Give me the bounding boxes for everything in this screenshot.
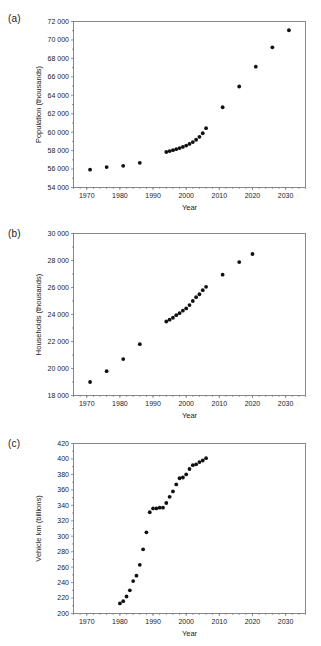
y-tick-label: 340 <box>57 502 69 509</box>
data-point <box>221 105 225 109</box>
x-tick-label: 2000 <box>178 618 194 625</box>
y-tick-label: 68 000 <box>48 55 70 62</box>
data-point <box>201 288 205 292</box>
y-tick-label: 60 000 <box>48 129 70 136</box>
data-point <box>194 462 198 466</box>
data-point <box>178 146 182 150</box>
x-tick-label: 2020 <box>245 400 261 407</box>
data-point <box>188 467 192 471</box>
x-tick-label: 1980 <box>112 618 128 625</box>
x-axis-title: Year <box>182 411 198 420</box>
data-point <box>145 530 149 534</box>
figure-three-scatter-panels: (a) 54 00056 00058 00060 00062 00064 000… <box>0 0 321 646</box>
data-point <box>178 311 182 315</box>
data-point <box>194 295 198 299</box>
data-point <box>184 473 188 477</box>
x-axis-title: Year <box>182 629 198 638</box>
x-tick-label: 1970 <box>79 400 95 407</box>
data-point <box>138 342 142 346</box>
panel-a-plot: 54 00056 00058 00060 00062 00064 00066 0… <box>0 0 321 215</box>
panel-a: (a) 54 00056 00058 00060 00062 00064 000… <box>0 0 321 215</box>
data-point <box>118 602 122 606</box>
y-tick-label: 360 <box>57 486 69 493</box>
data-point <box>154 507 158 511</box>
y-tick-label: 300 <box>57 533 69 540</box>
y-tick-label: 26 000 <box>48 284 70 291</box>
data-point <box>88 168 92 172</box>
data-point <box>105 369 109 373</box>
y-tick-label: 62 000 <box>48 110 70 117</box>
y-tick-label: 56 000 <box>48 165 70 172</box>
data-point <box>171 148 175 152</box>
data-point <box>88 380 92 384</box>
data-point <box>184 144 188 148</box>
y-tick-label: 420 <box>57 440 69 447</box>
data-point <box>125 595 129 599</box>
x-tick-label: 1980 <box>112 192 128 199</box>
data-point <box>254 65 258 69</box>
y-tick-label: 72 000 <box>48 18 70 25</box>
panel-b: (b) 18 00020 00022 00024 00026 00028 000… <box>0 215 321 425</box>
y-tick-label: 320 <box>57 517 69 524</box>
data-point <box>151 507 155 511</box>
data-point <box>121 164 125 168</box>
data-point <box>178 476 182 480</box>
data-point <box>287 28 291 32</box>
x-axis-title: Year <box>182 203 198 212</box>
data-point <box>188 142 192 146</box>
data-point <box>201 459 205 463</box>
y-tick-label: 54 000 <box>48 184 70 191</box>
data-point <box>181 145 185 149</box>
y-tick-label: 240 <box>57 579 69 586</box>
data-point <box>174 147 178 151</box>
data-point <box>204 456 208 460</box>
y-tick-label: 220 <box>57 594 69 601</box>
panel-b-plot: 18 00020 00022 00024 00026 00028 00030 0… <box>0 215 321 425</box>
data-point <box>191 140 195 144</box>
data-point <box>191 299 195 303</box>
data-point <box>121 357 125 361</box>
y-tick-label: 260 <box>57 564 69 571</box>
x-tick-label: 1970 <box>79 618 95 625</box>
data-point <box>168 318 172 322</box>
data-point <box>174 483 178 487</box>
data-point <box>168 495 172 499</box>
y-tick-label: 380 <box>57 471 69 478</box>
data-series <box>88 28 291 171</box>
y-tick-label: 200 <box>57 610 69 617</box>
data-point <box>198 135 202 139</box>
y-tick-label: 400 <box>57 455 69 462</box>
y-tick-label: 18 000 <box>48 392 70 399</box>
x-tick-label: 2000 <box>178 400 194 407</box>
data-series <box>118 456 208 605</box>
data-point <box>191 463 195 467</box>
data-point <box>164 501 168 505</box>
data-point <box>237 85 241 89</box>
x-tick-label: 2030 <box>278 400 294 407</box>
data-point <box>221 273 225 277</box>
data-point <box>168 149 172 153</box>
x-tick-label: 2000 <box>178 192 194 199</box>
data-point <box>148 510 152 514</box>
data-point <box>194 138 198 142</box>
y-tick-label: 24 000 <box>48 311 70 318</box>
x-tick-label: 1990 <box>145 192 161 199</box>
x-tick-label: 2030 <box>278 618 294 625</box>
x-tick-label: 1990 <box>145 618 161 625</box>
data-point <box>171 316 175 320</box>
data-point <box>188 303 192 307</box>
data-point <box>105 165 109 169</box>
data-point <box>181 476 185 480</box>
data-point <box>164 150 168 154</box>
y-tick-label: 30 000 <box>48 230 70 237</box>
data-point <box>174 313 178 317</box>
data-point <box>135 574 139 578</box>
y-tick-label: 58 000 <box>48 147 70 154</box>
panel-c: (c) 200220240260280300320340360380400420… <box>0 425 321 646</box>
x-tick-label: 1990 <box>145 400 161 407</box>
y-tick-label: 66 000 <box>48 73 70 80</box>
data-point <box>201 131 205 135</box>
data-point <box>158 506 162 510</box>
x-tick-label: 1970 <box>79 192 95 199</box>
data-point <box>138 161 142 165</box>
